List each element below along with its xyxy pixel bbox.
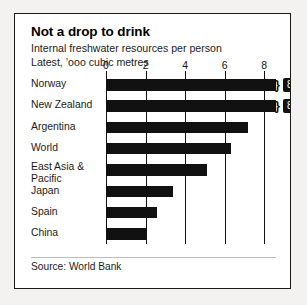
category-label-line: Japan [31,185,103,197]
tick-mark-2 [146,71,147,76]
bar [106,186,173,198]
category-label-line: Spain [31,206,103,218]
tick-mark-4 [185,71,186,76]
bar [106,100,276,112]
axis-break-mark: } [275,99,283,112]
tick-mark-8 [264,71,265,76]
category-label-line: New Zealand [31,99,103,111]
tick-mark-0 [106,71,107,76]
bar [106,164,207,176]
chart-subtitle-line1: Internal freshwater resources per person [31,42,222,54]
axis-break-mark: } [275,78,283,91]
chart-card: Not a drop to drink Internal freshwater … [14,13,291,289]
category-label: Norway [31,78,103,90]
category-label-line: China [31,227,103,239]
category-label-line: Pacific [31,173,103,185]
x-axis-tick-label: 8 [261,60,267,71]
category-label-line: East Asia & [31,161,103,173]
source-note: Source: World Bank [31,261,121,272]
footer-divider [31,257,276,258]
category-label: New Zealand [31,99,103,111]
tick-mark-6 [225,71,226,76]
x-axis-tick-label: 0 [103,60,109,71]
category-label: Argentina [31,121,103,133]
category-label: Japan [31,185,103,197]
bar [106,228,146,240]
category-label: East Asia &Pacific [31,161,103,184]
bar [106,143,231,155]
category-label-line: World [31,142,103,154]
value-label: 83.7 [283,78,291,92]
x-axis-tick-label: 6 [222,60,228,71]
category-label: World [31,142,103,154]
bar [106,207,157,219]
plot-area: 02468}83.7}81.6 [106,76,276,251]
chart-subtitle-line2: Latest, ’ooo cubic metres [31,56,149,68]
bar [106,122,248,134]
x-axis-tick-label: 4 [182,60,188,71]
value-label: 81.6 [283,99,291,113]
category-label-line: Argentina [31,121,103,133]
category-label: Spain [31,206,103,218]
chart-title: Not a drop to drink [31,24,150,39]
x-axis-tick-label: 2 [143,60,149,71]
bar [106,79,276,91]
category-label: China [31,227,103,239]
category-label-line: Norway [31,78,103,90]
